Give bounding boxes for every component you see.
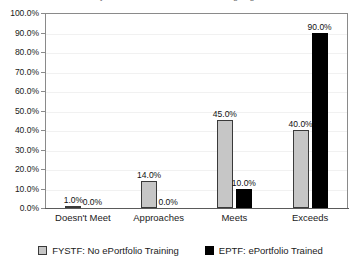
- y-axis-tick: [41, 33, 45, 34]
- x-axis-category-label: Doesn't Meet: [55, 212, 111, 223]
- gray-square-icon: [38, 246, 47, 255]
- bar-value-label: 1.0%: [64, 195, 83, 205]
- x-axis-category-label: Approaches: [133, 212, 184, 223]
- chart-title-cropped: Study of ePortfolio use: Critical thinki…: [0, 0, 361, 3]
- legend-item-fystf[interactable]: FYSTF: No ePortfolio Training: [38, 245, 179, 256]
- bar-fystf[interactable]: [293, 130, 309, 208]
- x-axis-category-label: Exceeds: [292, 212, 328, 223]
- bar-fystf[interactable]: [217, 120, 233, 208]
- legend-label: EPTF: ePortfolio Trained: [219, 245, 323, 256]
- y-axis-tick-label: 80.0%: [15, 47, 39, 57]
- bar-group: 1.0%0.0%: [45, 13, 121, 208]
- bar-fystf[interactable]: [141, 181, 157, 208]
- bar-group: 40.0%90.0%: [272, 13, 348, 208]
- y-axis-tick: [41, 13, 45, 14]
- bar-group: 14.0%0.0%: [121, 13, 197, 208]
- y-axis-tick: [41, 208, 45, 209]
- legend-label: FYSTF: No ePortfolio Training: [52, 245, 179, 256]
- y-axis-tick: [41, 72, 45, 73]
- y-axis-tick-label: 10.0%: [15, 184, 39, 194]
- y-axis-tick: [41, 130, 45, 131]
- bar-group: 45.0%10.0%: [197, 13, 273, 208]
- y-axis-tick-label: 30.0%: [15, 145, 39, 155]
- bar-value-label: 45.0%: [213, 109, 237, 119]
- x-axis-labels: Doesn't MeetApproachesMeetsExceeds: [45, 212, 348, 228]
- x-axis-line: [45, 208, 349, 209]
- y-axis-tick-label: 60.0%: [15, 86, 39, 96]
- bar-value-label: 10.0%: [232, 178, 256, 188]
- y-axis: 100.0%90.0%80.0%70.0%60.0%50.0%40.0%30.0…: [0, 13, 42, 209]
- legend-item-eptf[interactable]: EPTF: ePortfolio Trained: [205, 245, 323, 256]
- y-axis-tick-label: 50.0%: [15, 106, 39, 116]
- y-axis-tick-label: 100.0%: [10, 8, 39, 18]
- y-axis-tick-label: 40.0%: [15, 125, 39, 135]
- bar-value-label: 0.0%: [83, 197, 102, 207]
- bar-value-label: 90.0%: [308, 22, 332, 32]
- y-axis-tick-label: 0.0%: [20, 203, 39, 213]
- y-axis-tick: [41, 91, 45, 92]
- y-axis-tick: [41, 52, 45, 53]
- black-square-icon: [205, 246, 214, 255]
- y-axis-tick-label: 20.0%: [15, 164, 39, 174]
- y-axis-tick-label: 90.0%: [15, 28, 39, 38]
- y-axis-tick: [41, 111, 45, 112]
- chart-legend: FYSTF: No ePortfolio Training EPTF: ePor…: [0, 241, 361, 259]
- x-axis-category-label: Meets: [221, 212, 247, 223]
- bar-value-label: 0.0%: [158, 197, 177, 207]
- y-axis-tick-label: 70.0%: [15, 67, 39, 77]
- bar-groups: 1.0%0.0%14.0%0.0%45.0%10.0%40.0%90.0%: [45, 13, 348, 208]
- y-axis-tick: [41, 169, 45, 170]
- bar-eptf[interactable]: [236, 189, 252, 209]
- bar-value-label: 14.0%: [137, 170, 161, 180]
- y-axis-tick: [41, 150, 45, 151]
- bar-eptf[interactable]: [312, 33, 328, 209]
- bar-chart: Study of ePortfolio use: Critical thinki…: [0, 0, 361, 261]
- y-axis-tick: [41, 189, 45, 190]
- bar-value-label: 40.0%: [289, 119, 313, 129]
